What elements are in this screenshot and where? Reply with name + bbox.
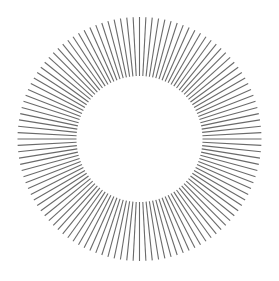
radial-burst-figure — [0, 0, 279, 281]
